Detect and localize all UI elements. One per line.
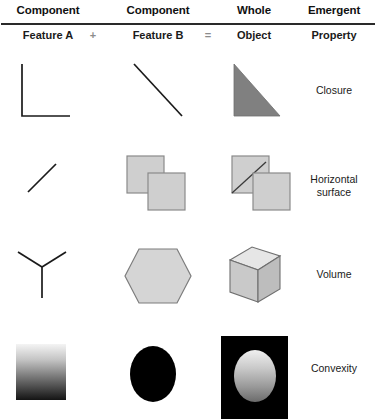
row-volume-emergent: Volume [294,236,374,318]
subheader-object: Object [222,29,286,41]
table-row: Closure [0,52,378,137]
table-subheader-row: Feature A Feature B Object Property + = [0,29,378,47]
row-horizontal-surface-feature-a [0,140,96,232]
row-closure-feature-b [106,52,210,137]
subheader-property: Property [294,29,374,41]
row-convexity-whole [216,322,292,419]
gradient-ellipse-on-black-square-icon [216,322,292,419]
row-closure-emergent: Closure [294,52,374,137]
filled-right-triangle-icon [216,52,292,137]
row-horizontal-surface-emergent: Horizontal surface [294,140,374,232]
diagonal-line-descending-icon [106,52,210,137]
short-diagonal-line-ascending-icon [0,140,96,232]
emergent-label: Volume [294,268,374,281]
row-closure-whole [216,52,292,137]
shaded-cube-icon [216,236,292,318]
row-volume-feature-b [106,236,210,318]
header-whole: Whole [222,4,286,16]
subheader-feature-a: Feature A [0,29,96,41]
plus-operator: + [84,29,102,41]
row-convexity-emergent: Convexity [294,322,374,419]
row-closure-feature-a [0,52,96,137]
header-component-a: Component [0,4,96,16]
black-ellipse-icon [106,322,210,419]
emergent-features-figure: Component Component Whole Emergent Featu… [0,0,378,419]
table-row: Horizontal surface [0,140,378,232]
table-header-row: Component Component Whole Emergent [0,4,378,22]
equals-operator: = [199,29,217,41]
emergent-label: Horizontal surface [294,173,374,198]
row-convexity-feature-a [0,322,96,419]
y-junction-icon [0,236,96,318]
header-component-b: Component [106,4,210,16]
emergent-label: Closure [294,84,374,97]
subheader-feature-b: Feature B [106,29,210,41]
right-angle-corner-icon [0,52,96,137]
row-convexity-feature-b [106,322,210,419]
table-row: Convexity [0,322,378,419]
overlapping-squares-with-diagonal-icon [216,140,292,232]
row-volume-whole [216,236,292,318]
filled-hexagon-icon [106,236,210,318]
emergent-label: Convexity [294,362,374,375]
row-horizontal-surface-whole [216,140,292,232]
row-horizontal-surface-feature-b [106,140,210,232]
vertical-gradient-square-icon [0,322,96,419]
table-row: Volume [0,236,378,318]
header-divider-rule [1,23,375,25]
header-emergent: Emergent [294,4,374,16]
two-overlapping-squares-icon [106,140,210,232]
row-volume-feature-a [0,236,96,318]
